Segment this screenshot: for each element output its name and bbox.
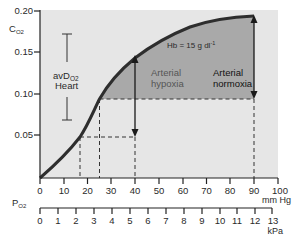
x-tick-80: 80 xyxy=(225,185,236,196)
hypoxia-label-line2: hypoxia xyxy=(151,78,184,89)
x-tick-30: 30 xyxy=(106,185,117,196)
hypoxia-label-line1: Arterial xyxy=(151,67,181,78)
kpa-tick-6: 6 xyxy=(145,215,150,226)
x-tick-20: 20 xyxy=(82,185,93,196)
kpa-tick-11: 11 xyxy=(232,215,242,226)
kpa-tick-2: 2 xyxy=(73,215,78,226)
y-tick-0.10: 0.10 xyxy=(15,88,34,99)
y-axis: 0.20 0.15 0.10 0.05 CO2 xyxy=(9,5,40,178)
x-tick-60: 60 xyxy=(178,185,189,196)
x-tick-10: 10 xyxy=(59,185,70,196)
x-tick-0: 0 xyxy=(37,185,42,196)
x-axis-title: PO2 xyxy=(12,197,27,209)
kpa-tick-0: 0 xyxy=(37,215,42,226)
kpa-tick-10: 10 xyxy=(215,215,226,226)
y-tick-0.15: 0.15 xyxy=(15,46,34,57)
kpa-tick-9: 9 xyxy=(199,215,204,226)
x-tick-40: 40 xyxy=(130,185,141,196)
unit-mmhg: mm Hg xyxy=(262,195,291,205)
y-tick-0.05: 0.05 xyxy=(15,129,34,140)
x-tick-90: 90 xyxy=(249,185,260,196)
kpa-tick-8: 8 xyxy=(181,215,186,226)
kpa-tick-1: 1 xyxy=(55,215,60,226)
heart-label: Heart xyxy=(55,80,79,91)
kpa-tick-4: 4 xyxy=(109,215,114,226)
x-axis-mmhg: 0 10 20 30 40 50 60 70 80 90 100 mm Hg P… xyxy=(12,178,291,209)
oxygen-content-chart: avDO2 Heart Hb = 15 g dl-1 Arterial hypo… xyxy=(0,0,295,249)
chart-svg: avDO2 Heart Hb = 15 g dl-1 Arterial hypo… xyxy=(0,0,295,249)
kpa-tick-3: 3 xyxy=(91,215,96,226)
normoxia-label-line2: normoxia xyxy=(213,78,253,89)
kpa-tick-5: 5 xyxy=(127,215,132,226)
kpa-tick-7: 7 xyxy=(163,215,168,226)
x-axis-kpa: 0 1 2 3 4 5 6 7 8 9 10 11 12 13 kPa xyxy=(37,208,283,236)
normoxia-label-line1: Arterial xyxy=(213,67,243,78)
kpa-tick-12: 12 xyxy=(250,215,261,226)
hb-label: Hb = 15 g dl-1 xyxy=(167,40,215,50)
y-tick-0.20: 0.20 xyxy=(15,5,34,16)
y-axis-title: CO2 xyxy=(9,23,25,35)
kpa-tick-13: 13 xyxy=(268,215,279,226)
x-tick-70: 70 xyxy=(201,185,212,196)
x-tick-50: 50 xyxy=(154,185,165,196)
unit-kpa: kPa xyxy=(267,226,283,236)
